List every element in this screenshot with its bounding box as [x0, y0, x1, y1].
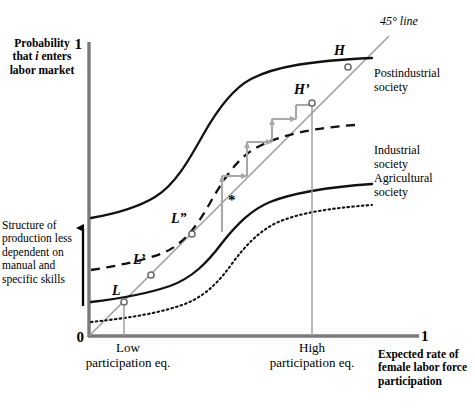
point-marker-L-prime	[148, 272, 154, 278]
curve-label-postindustrial-society: Postindustrialsociety	[374, 66, 474, 94]
axes-group	[88, 42, 419, 337]
point-label-H-prime: H’	[294, 82, 310, 98]
curve-label-industrial-society: Industrialsociety	[374, 143, 474, 171]
point-marker-L-double-prime	[189, 231, 195, 237]
x-axis-label: Expected rate offemale labor forcepartic…	[378, 348, 475, 388]
low-participation-eq-caption: Lowparticipation eq.	[80, 340, 176, 370]
point-marker-H-prime	[309, 100, 315, 106]
point-marker-L	[121, 299, 127, 305]
structure-of-production-note: Structure ofproduction lessdependent onm…	[2, 219, 82, 286]
point-label-L: L	[112, 283, 121, 299]
forty-five-degree-line-label: 45° line	[380, 14, 450, 28]
point-marker-H	[345, 64, 351, 70]
point-label-H: H	[334, 43, 345, 59]
point-label-L-double-prime: L”	[171, 211, 187, 227]
annotation-star: *	[228, 192, 236, 210]
point-label-L-prime: L’	[133, 252, 145, 268]
diagram-canvas: Probabilitythat i enterslabor market 1 0…	[0, 0, 475, 412]
x-axis-max-tick: 1	[421, 328, 435, 346]
high-participation-eq-caption: Highparticipation eq.	[264, 340, 360, 370]
y-axis-max-tick: 1	[68, 36, 82, 54]
cobweb-adjustment-path	[222, 105, 312, 232]
curve-label-agricultural-society: Agriculturalsociety	[374, 171, 474, 199]
